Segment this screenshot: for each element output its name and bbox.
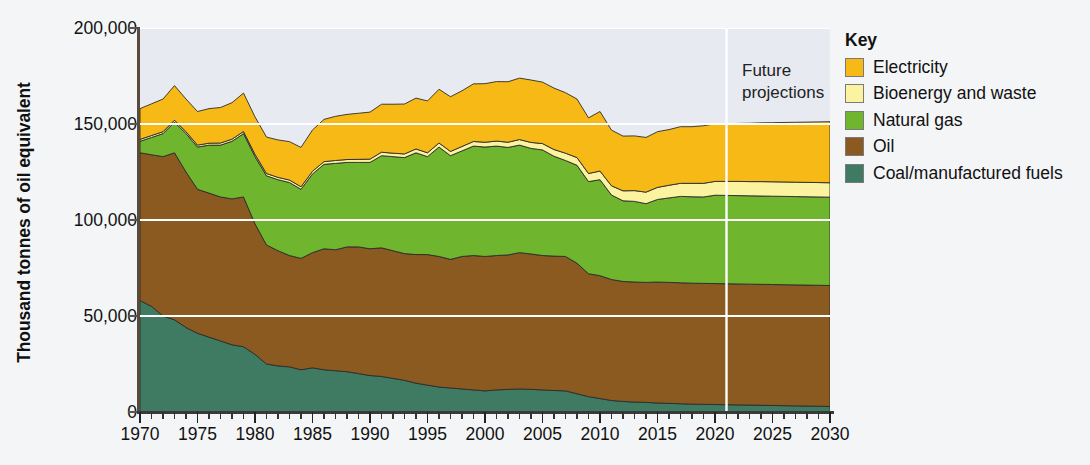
x-tick-minor [703,412,705,419]
x-tick-minor [231,412,233,419]
x-tick-label: 1970 [121,424,160,445]
legend-swatch-icon [845,58,864,77]
x-tick-minor [553,412,555,419]
x-tick-major [254,412,256,423]
x-tick-major [829,412,831,423]
legend-title: Key [845,30,1090,51]
x-tick-major [312,412,314,423]
x-tick-minor [323,412,325,419]
legend-swatch-icon [845,111,864,130]
x-tick-label: 2005 [523,424,562,445]
chart-root: Thousand tonnes of oil equivalent 050,00… [0,0,1090,465]
x-tick-label: 2010 [581,424,620,445]
x-tick-minor [726,412,728,419]
future-projections-line1: Future [742,60,838,82]
x-tick-minor [300,412,302,419]
x-tick-minor [611,412,613,419]
x-tick-minor [496,412,498,419]
x-tick-minor [795,412,797,419]
legend-item[interactable]: Electricity [845,56,1090,78]
x-tick-minor [473,412,475,419]
x-tick-label: 1990 [351,424,390,445]
legend-swatch-icon [845,164,864,183]
y-tick-label: 100,000 [29,210,137,231]
x-tick-label: 1985 [293,424,332,445]
x-tick-minor [565,412,567,419]
x-tick-minor [806,412,808,419]
x-tick-minor [530,412,532,419]
x-tick-minor [680,412,682,419]
x-tick-label: 2000 [466,424,505,445]
x-tick-minor [346,412,348,419]
x-tick-major [369,412,371,423]
future-projections-line2: projections [742,82,838,104]
x-tick-minor [622,412,624,419]
legend-item[interactable]: Oil [845,136,1090,158]
x-tick-major [542,412,544,423]
x-tick-major [772,412,774,423]
x-tick-major [139,412,141,423]
x-tick-minor [576,412,578,419]
x-tick-minor [691,412,693,419]
y-tick-label: 50,000 [29,306,137,327]
x-tick-minor [507,412,509,419]
legend-item[interactable]: Coal/manufactured fuels [845,162,1090,184]
legend-item-label: Oil [873,136,894,157]
legend-item-label: Natural gas [873,110,963,131]
x-tick-minor [760,412,762,419]
y-tick-label: 200,000 [29,18,137,39]
legend-item[interactable]: Natural gas [845,109,1090,131]
x-tick-minor [381,412,383,419]
legend-item-label: Bioenergy and waste [873,83,1036,104]
x-tick-minor [277,412,279,419]
y-axis-ticks: 050,000100,000150,000200,000 [0,0,137,465]
x-tick-major [599,412,601,423]
x-tick-minor [461,412,463,419]
x-tick-minor [174,412,176,419]
x-tick-minor [335,412,337,419]
x-tick-minor [519,412,521,419]
x-tick-minor [818,412,820,419]
x-tick-label: 1980 [236,424,275,445]
x-tick-minor [404,412,406,419]
x-tick-minor [208,412,210,419]
x-tick-major [484,412,486,423]
x-tick-minor [737,412,739,419]
x-tick-minor [415,412,417,419]
x-tick-minor [358,412,360,419]
y-axis-line [137,27,140,413]
x-tick-minor [392,412,394,419]
x-tick-major [657,412,659,423]
plot-area [140,28,830,412]
x-tick-minor [749,412,751,419]
legend: Key ElectricityBioenergy and wasteNatura… [845,30,1090,189]
x-tick-label: 2015 [638,424,677,445]
x-tick-label: 2020 [696,424,735,445]
legend-swatch-icon [845,84,864,103]
legend-swatch-icon [845,137,864,156]
y-tick-label: 0 [29,402,137,423]
x-tick-minor [220,412,222,419]
x-tick-minor [668,412,670,419]
x-tick-label: 1975 [178,424,217,445]
x-tick-minor [588,412,590,419]
x-tick-label: 2030 [811,424,850,445]
x-tick-minor [243,412,245,419]
legend-item[interactable]: Bioenergy and waste [845,83,1090,105]
x-tick-minor [162,412,164,419]
x-tick-minor [783,412,785,419]
x-tick-minor [450,412,452,419]
x-tick-minor [151,412,153,419]
future-projections-annotation: Future projections [742,60,838,105]
x-tick-major [714,412,716,423]
y-tick-label: 150,000 [29,114,137,135]
x-tick-label: 1995 [408,424,447,445]
legend-item-label: Coal/manufactured fuels [873,163,1063,184]
legend-item-label: Electricity [873,57,948,78]
x-tick-minor [634,412,636,419]
x-tick-minor [266,412,268,419]
x-tick-minor [438,412,440,419]
x-tick-major [197,412,199,423]
x-tick-minor [289,412,291,419]
x-tick-label: 2025 [753,424,792,445]
